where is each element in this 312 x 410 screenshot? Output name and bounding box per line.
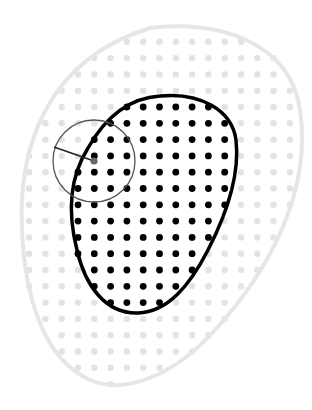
outer-dot	[59, 153, 65, 159]
outer-dot	[222, 299, 228, 305]
inner-dot	[189, 234, 196, 241]
inner-dot	[205, 185, 212, 192]
outer-dot	[91, 71, 97, 77]
outer-dot	[156, 88, 162, 94]
outer-dot	[173, 332, 179, 338]
outer-dot	[238, 267, 244, 273]
outer-dot	[124, 88, 130, 94]
outer-dot	[140, 316, 146, 322]
inner-dot	[107, 283, 114, 290]
outer-dot	[287, 185, 293, 191]
outer-dot	[26, 185, 32, 191]
outer-dot	[75, 88, 81, 94]
inner-dot	[107, 169, 114, 176]
inner-dot	[91, 185, 98, 192]
outer-dot	[222, 104, 228, 110]
outer-dot	[156, 332, 162, 338]
outer-dot	[205, 283, 211, 289]
outer-dot	[222, 251, 228, 257]
inner-dot	[124, 169, 131, 176]
outer-dot	[75, 283, 81, 289]
outer-dot	[107, 88, 113, 94]
outer-dot	[189, 332, 195, 338]
outer-dot	[75, 299, 81, 305]
outer-dot	[75, 316, 81, 322]
outer-dot	[59, 202, 65, 208]
outer-dot	[189, 88, 195, 94]
outer-dot	[173, 299, 179, 305]
outer-dot	[254, 251, 260, 257]
inner-dot	[107, 185, 114, 192]
outer-dot	[238, 234, 244, 240]
inner-dot	[124, 283, 131, 290]
outer-dot	[222, 283, 228, 289]
outer-dot	[156, 348, 162, 354]
outer-dot	[91, 88, 97, 94]
outer-dot	[42, 136, 48, 142]
inner-dot	[124, 299, 131, 306]
outer-dot	[59, 283, 65, 289]
outer-dot	[222, 55, 228, 61]
outer-dot	[238, 218, 244, 224]
inner-dot	[140, 218, 147, 225]
outer-dot	[189, 39, 195, 45]
inner-dot	[140, 267, 147, 274]
outer-dot	[222, 88, 228, 94]
outer-dot	[124, 348, 130, 354]
inner-dot	[124, 234, 131, 241]
outer-dot	[238, 88, 244, 94]
inner-dot	[75, 218, 82, 225]
outer-dot	[107, 104, 113, 110]
outer-dot	[59, 218, 65, 224]
outer-dot	[124, 316, 130, 322]
outer-dot	[238, 202, 244, 208]
outer-dot	[222, 234, 228, 240]
inner-dot	[140, 136, 147, 143]
outer-dot	[107, 55, 113, 61]
inner-dot	[189, 218, 196, 225]
outer-dot	[140, 71, 146, 77]
inner-dot	[124, 201, 131, 208]
inner-dot	[140, 185, 147, 192]
outer-dot	[26, 202, 32, 208]
outer-dot	[42, 169, 48, 175]
inner-dot	[205, 136, 212, 143]
inner-dot	[124, 218, 131, 225]
inner-dot	[205, 201, 212, 208]
outer-dot	[270, 120, 276, 126]
outer-dot	[91, 104, 97, 110]
outer-dot	[42, 299, 48, 305]
inner-dot	[156, 218, 163, 225]
outer-dot	[59, 299, 65, 305]
outer-dot	[107, 365, 113, 371]
outer-dot	[254, 234, 260, 240]
inner-dot	[205, 169, 212, 176]
inner-dot	[140, 120, 147, 127]
inner-dot	[205, 218, 212, 225]
inner-dot	[221, 169, 228, 176]
outer-dot	[222, 71, 228, 77]
inner-dot	[205, 153, 212, 160]
outer-dot	[189, 71, 195, 77]
outer-dot	[287, 153, 293, 159]
inner-dot	[124, 250, 131, 257]
inner-dot	[221, 153, 228, 160]
outer-dot	[59, 169, 65, 175]
outer-dot	[59, 104, 65, 110]
outer-dot	[59, 267, 65, 273]
outer-dot	[189, 55, 195, 61]
outer-dot	[254, 169, 260, 175]
outer-dot	[59, 316, 65, 322]
diagram-canvas	[0, 0, 312, 410]
inner-dot	[189, 136, 196, 143]
outer-dot	[75, 104, 81, 110]
outer-dot	[156, 39, 162, 45]
inner-dot	[172, 185, 179, 192]
inner-dot	[140, 201, 147, 208]
inner-dot	[189, 169, 196, 176]
inner-dot	[107, 218, 114, 225]
outer-dot	[238, 120, 244, 126]
outer-dot	[238, 153, 244, 159]
outer-dot	[42, 267, 48, 273]
outer-dot	[238, 55, 244, 61]
